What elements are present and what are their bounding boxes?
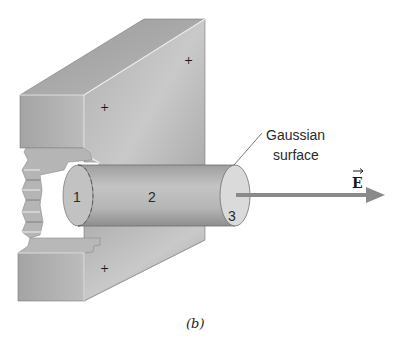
region-label-2: 2 bbox=[148, 189, 156, 205]
charge-plus-1: + bbox=[100, 101, 109, 114]
callout-gaussian: Gaussian bbox=[266, 127, 325, 143]
region-label-3: 3 bbox=[228, 208, 236, 224]
charge-plus-3: + bbox=[100, 262, 109, 275]
gauss-law-illustration: + + + 1 2 3 E Gaussian surface (b) bbox=[0, 0, 397, 345]
charge-plus-2: + bbox=[184, 54, 193, 67]
charged-slab-lower bbox=[18, 225, 205, 301]
figure-caption: (b) bbox=[186, 316, 204, 331]
region-label-1: 1 bbox=[73, 189, 81, 205]
gaussian-cylinder: 1 2 3 bbox=[63, 165, 250, 226]
callout-leader-line bbox=[234, 133, 262, 165]
callout-surface: surface bbox=[273, 147, 319, 163]
vector-arrow-icon bbox=[353, 169, 363, 174]
field-label-E: E bbox=[352, 175, 363, 191]
